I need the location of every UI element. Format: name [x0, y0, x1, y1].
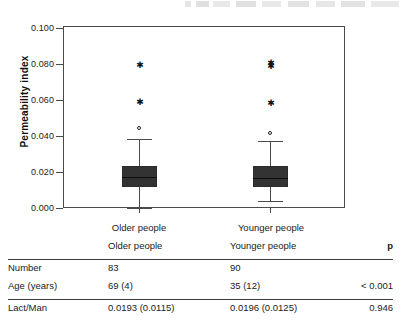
- row-older: 83: [108, 262, 228, 273]
- header-p: p: [308, 240, 393, 251]
- whisker-upper: [270, 141, 271, 167]
- table-header-row: Older people Younger people p: [8, 240, 393, 258]
- table-row: Lact/Man 0.0193 (0.0115) 0.0196 (0.0125)…: [8, 302, 393, 320]
- y-tick-label: 0.000: [8, 203, 54, 213]
- y-tick-label: 0.100: [8, 23, 54, 33]
- y-tick-mark: [56, 208, 63, 209]
- summary-table: Older people Younger people p Number 83 …: [0, 240, 401, 320]
- whisker-lower: [270, 187, 271, 201]
- table-row: Age (years) 69 (4) 35 (12) < 0.001: [8, 280, 393, 298]
- row-label: Number: [8, 262, 108, 273]
- row-label: Age (years): [8, 280, 108, 291]
- boxplot-chart: Permeability index 0.100 0.080 0.060 0.0…: [0, 0, 401, 246]
- box-iqr: [253, 166, 288, 187]
- outlier-circle: [137, 126, 141, 130]
- outlier-circle: [268, 131, 272, 135]
- whisker-upper: [139, 139, 140, 168]
- x-category-label-older: Older people: [99, 222, 179, 233]
- outlier-star: ✱: [135, 99, 145, 105]
- y-tick-label: 0.040: [8, 131, 54, 141]
- row-older: 69 (4): [108, 280, 228, 291]
- y-tick-mark: [56, 172, 63, 173]
- x-tick-mark: [270, 208, 271, 213]
- y-tick-mark: [56, 136, 63, 137]
- y-tick-mark: [56, 100, 63, 101]
- row-p: 0.946: [308, 302, 393, 313]
- y-tick-mark: [56, 64, 63, 65]
- table-row: Number 83 90: [8, 262, 393, 280]
- x-tick-mark: [139, 208, 140, 213]
- median-line: [253, 178, 288, 179]
- x-category-label-younger: Younger people: [226, 222, 316, 233]
- median-line: [122, 177, 157, 178]
- table-rule-top: [8, 259, 393, 260]
- row-older: 0.0193 (0.0115): [108, 302, 228, 313]
- plot-frame: [63, 26, 345, 208]
- outlier-star: ✱: [266, 63, 276, 69]
- y-tick-label: 0.020: [8, 167, 54, 177]
- outlier-star: ✱: [266, 100, 276, 106]
- table-rule-middle: [8, 299, 393, 300]
- row-p: < 0.001: [308, 280, 393, 291]
- row-label: Lact/Man: [8, 302, 108, 313]
- header-older: Older people: [108, 240, 228, 251]
- y-tick-label: 0.060: [8, 95, 54, 105]
- y-tick-label: 0.080: [8, 59, 54, 69]
- y-tick-mark: [56, 28, 63, 29]
- outlier-star: ✱: [135, 62, 145, 68]
- row-younger: 90: [230, 262, 350, 273]
- whisker-lower: [139, 187, 140, 208]
- whisker-cap-lower: [258, 201, 283, 202]
